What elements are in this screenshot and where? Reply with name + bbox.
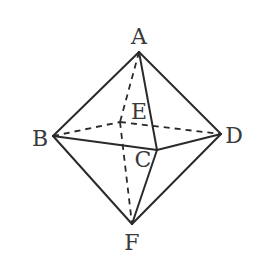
vertex-label-e: E	[131, 101, 147, 123]
edge-cd	[157, 134, 221, 150]
vertex-label-f: F	[124, 232, 139, 254]
hidden-edge-ef	[120, 122, 132, 224]
vertex-label-a: A	[131, 26, 147, 48]
edge-bf	[53, 136, 132, 224]
octahedron-diagram: A B C D E F	[0, 0, 264, 269]
vertex-label-b: B	[32, 128, 48, 150]
vertex-label-d: D	[225, 125, 243, 147]
vertex-label-c: C	[135, 149, 152, 171]
edge-ab	[53, 52, 139, 136]
hidden-edge-be	[53, 122, 120, 136]
